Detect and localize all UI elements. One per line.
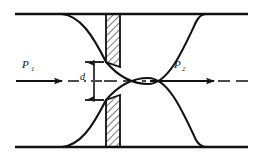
- label-upstream-pressure: P 1: [21, 58, 35, 73]
- orifice-plate-lower: [106, 95, 120, 147]
- jet-curve-lower: [106, 78, 206, 147]
- downstream-pressure-subscript: 2: [182, 65, 186, 73]
- label-downstream-pressure: P 2: [173, 58, 186, 73]
- downstream-pressure-symbol: P: [173, 58, 181, 70]
- jet-curve-lower-approach: [62, 100, 106, 147]
- upstream-pressure-symbol: P: [21, 58, 29, 70]
- jet-curve-upper-approach: [62, 14, 106, 62]
- orifice-flowmeter-figure: P 1 P 2 d: [0, 0, 260, 165]
- upstream-pressure-subscript: 1: [31, 65, 35, 73]
- jet-curve-upper: [106, 14, 206, 84]
- orifice-plate-upper: [106, 14, 120, 67]
- orifice-diagram-svg: P 1 P 2 d: [0, 0, 260, 165]
